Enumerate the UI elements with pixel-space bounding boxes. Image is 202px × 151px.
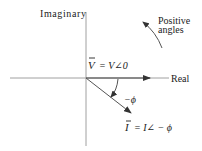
real-axis-label: Real [171, 73, 190, 84]
phasor-diagram: Imaginary Real Positive angles V = V∠0 −… [0, 0, 202, 151]
positive-angles-label-line2: angles [158, 24, 184, 35]
imaginary-axis-label: Imaginary [40, 8, 87, 19]
angle-arc-icon [111, 79, 118, 97]
current-phasor-symbol: I [124, 121, 130, 133]
angle-label: −ϕ [124, 94, 136, 105]
current-phasor-equation: I = I∠ − ϕ [124, 121, 172, 133]
voltage-phasor-symbol: V [88, 59, 96, 71]
voltage-phasor-equation: V = V∠0 [88, 58, 128, 71]
current-phasor-value: = I∠ − ϕ [134, 122, 172, 133]
voltage-phasor-value: = V∠0 [99, 60, 128, 71]
